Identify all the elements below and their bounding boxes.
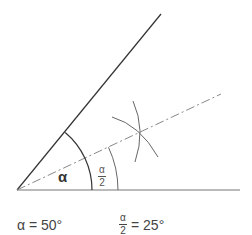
half-value-denominator: 2 xyxy=(120,226,126,235)
alpha-arc xyxy=(65,133,92,191)
half-value-fraction: α 2 xyxy=(119,213,127,235)
half-angle-label: α 2 xyxy=(98,165,106,188)
upper-ray xyxy=(17,14,161,190)
half-angle-denominator: 2 xyxy=(99,178,105,188)
angle-bisection-diagram xyxy=(0,0,252,235)
construction-arc-1 xyxy=(133,101,140,162)
construction-arc-2 xyxy=(112,117,158,157)
alpha-label: α xyxy=(58,168,67,185)
half-angle-arc xyxy=(109,147,119,190)
half-value-text: = 25° xyxy=(131,217,164,233)
alpha-value-text: α = 50° xyxy=(17,217,62,233)
bisector-line xyxy=(17,94,221,190)
half-value-numerator: α xyxy=(120,213,126,223)
half-angle-numerator: α xyxy=(99,165,105,175)
